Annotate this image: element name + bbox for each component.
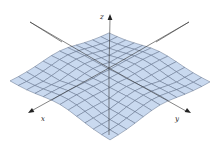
y-axis-label: y: [174, 115, 180, 123]
wireframe-surface: [10, 33, 210, 140]
x-axis-arrowhead-icon: [28, 108, 34, 113]
z-axis-arrowhead-icon: [108, 14, 113, 20]
x-axis-label: x: [41, 115, 45, 123]
surface-plot-canvas: z x y: [0, 0, 212, 146]
surface-plot-figure: z x y: [0, 0, 212, 146]
y-axis-arrowhead-icon: [185, 108, 191, 113]
z-axis-label: z: [99, 13, 104, 21]
